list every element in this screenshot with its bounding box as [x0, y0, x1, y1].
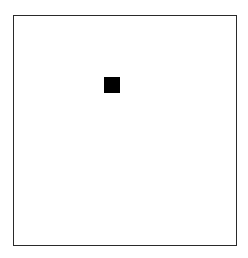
- black-square-marker: [104, 77, 120, 93]
- canvas-frame: [13, 15, 237, 246]
